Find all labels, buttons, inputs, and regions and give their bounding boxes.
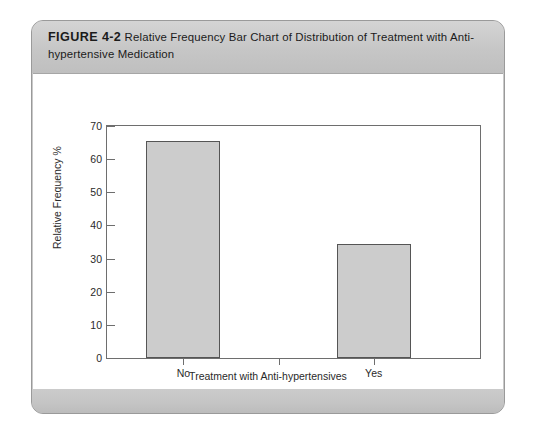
y-axis-title: Relative Frequency % — [51, 146, 63, 249]
y-axis-tick: 40 — [107, 225, 115, 226]
x-axis-tick — [183, 358, 184, 365]
y-axis-tick: 20 — [107, 292, 115, 293]
y-axis-tick-label: 0 — [96, 352, 102, 364]
y-axis-tick-label: 30 — [90, 253, 102, 265]
bar-yes — [337, 244, 411, 358]
x-axis-tick — [279, 358, 280, 365]
x-axis-tick — [374, 358, 375, 365]
x-axis-title: Treatment with Anti-hypertensives — [33, 370, 503, 382]
bar-no — [146, 141, 220, 358]
y-axis-tick: 0 — [107, 358, 115, 359]
y-axis-tick: 60 — [107, 159, 115, 160]
figure-caption: FIGURE 4-2 Relative Frequency Bar Chart … — [48, 29, 490, 62]
figure-footer-band — [32, 389, 504, 413]
y-axis-tick-label: 70 — [90, 120, 102, 132]
y-axis-tick: 30 — [107, 259, 115, 260]
y-axis-tick-label: 40 — [90, 219, 102, 231]
y-axis-tick: 50 — [107, 192, 115, 193]
y-axis-tick: 70 — [107, 126, 115, 127]
figure-panel: FIGURE 4-2 Relative Frequency Bar Chart … — [31, 20, 505, 414]
y-axis-tick-label: 20 — [90, 286, 102, 298]
chart-canvas: Relative Frequency % 010203040506070NoYe… — [33, 73, 503, 391]
figure-screenshot: FIGURE 4-2 Relative Frequency Bar Chart … — [0, 0, 538, 434]
y-axis-tick-label: 10 — [90, 319, 102, 331]
y-axis-tick: 10 — [107, 325, 115, 326]
y-axis-tick-label: 60 — [90, 153, 102, 165]
figure-caption-band: FIGURE 4-2 Relative Frequency Bar Chart … — [32, 21, 504, 73]
y-axis-tick-label: 50 — [90, 186, 102, 198]
figure-number-label: FIGURE 4-2 — [48, 30, 121, 44]
plot-area: 010203040506070NoYes — [106, 125, 481, 359]
